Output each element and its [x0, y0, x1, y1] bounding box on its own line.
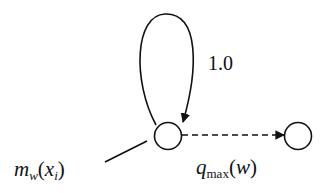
edge-label-close: ): [250, 155, 257, 179]
node-label-arg: x: [45, 157, 54, 181]
node-label: mw(xi): [14, 157, 65, 184]
edge-label-open: (: [229, 155, 236, 179]
edge-label: qmax(w): [196, 155, 257, 182]
loop-weight-label: 1.0: [208, 52, 233, 75]
edge-label-main: q: [196, 155, 207, 179]
edge-label-arg: w: [236, 155, 250, 179]
self-loop-edge: [140, 14, 193, 125]
edge-label-sub: max: [207, 166, 229, 181]
node-label-open: (: [38, 157, 45, 181]
state-node: [155, 123, 182, 150]
node-label-close: ): [58, 157, 65, 181]
node-label-main: m: [14, 157, 29, 181]
diagram-canvas: 1.0 mw(xi) qmax(w): [0, 0, 329, 193]
node-label-sub: w: [29, 168, 38, 183]
next-state-node: [285, 123, 312, 150]
node-label-pointer: [105, 141, 147, 162]
